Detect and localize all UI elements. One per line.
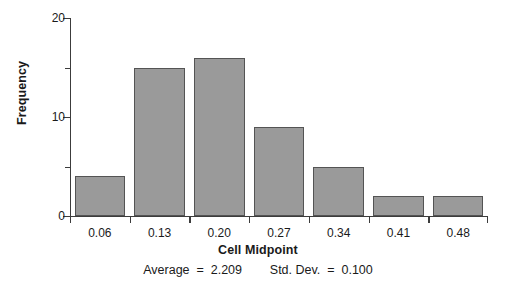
histogram-figure: Frequency 01020 0.060.130.200.270.340.41… <box>0 0 516 293</box>
x-tick-label-0.41: 0.41 <box>387 226 410 240</box>
bar-series <box>70 18 488 216</box>
x-tick-mark-3 <box>249 216 250 223</box>
y-tick-label-0: 0 <box>58 209 65 223</box>
x-axis-title: Cell Midpoint <box>0 243 516 257</box>
x-tick-mark-0 <box>70 216 71 223</box>
x-tick-mark-1 <box>130 216 131 223</box>
bar-0.13 <box>134 68 184 217</box>
x-tick-mark-2 <box>189 216 190 223</box>
y-tick-label-10: 10 <box>52 110 65 124</box>
summary-statistics: Average = 2.209 Std. Dev. = 0.100 <box>0 263 516 277</box>
x-tick-mark-7 <box>487 216 488 223</box>
y-axis-title: Frequency <box>15 33 29 153</box>
x-tick-mark-6 <box>428 216 429 223</box>
x-axis-line <box>70 216 488 217</box>
bar-0.41 <box>373 196 423 216</box>
plot-area: 01020 0.060.130.200.270.340.410.48 <box>70 18 488 216</box>
bar-0.27 <box>254 127 304 216</box>
y-tick-label-20: 20 <box>52 11 65 25</box>
x-tick-label-0.27: 0.27 <box>267 226 290 240</box>
x-tick-label-0.48: 0.48 <box>446 226 469 240</box>
x-tick-mark-5 <box>369 216 370 223</box>
bar-0.20 <box>194 58 244 216</box>
bar-0.48 <box>433 196 483 216</box>
x-tick-label-0.20: 0.20 <box>208 226 231 240</box>
x-tick-label-0.13: 0.13 <box>148 226 171 240</box>
x-tick-label-0.34: 0.34 <box>327 226 350 240</box>
bar-0.34 <box>313 167 363 217</box>
x-tick-label-0.06: 0.06 <box>88 226 111 240</box>
x-tick-mark-4 <box>309 216 310 223</box>
bar-0.06 <box>75 176 125 216</box>
